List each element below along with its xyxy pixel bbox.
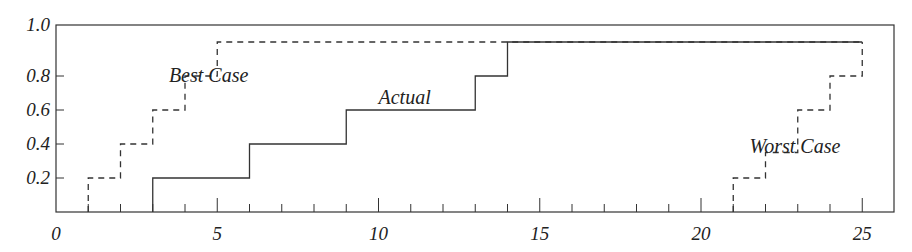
step-chart: 05101520250.20.40.60.81.0 Best CaseActua…	[0, 0, 912, 252]
x-tick-label: 20	[692, 223, 712, 244]
y-tick-label: 0.8	[26, 65, 50, 86]
x-tick-label: 0	[51, 223, 61, 244]
annotation-label: Best Case	[169, 64, 249, 86]
series-actual	[153, 42, 863, 212]
y-tick-label: 1.0	[26, 14, 50, 35]
y-tick-label: 0.6	[26, 99, 50, 120]
x-tick-label: 10	[369, 223, 389, 244]
annotation-label: Actual	[377, 86, 432, 108]
annotation-label: Worst Case	[749, 135, 840, 157]
x-tick-label: 25	[853, 223, 872, 244]
x-tick-label: 5	[213, 223, 223, 244]
series-worst-case	[733, 42, 862, 212]
plot-frame	[56, 25, 894, 212]
y-tick-label: 0.2	[26, 167, 50, 188]
y-tick-label: 0.4	[26, 133, 50, 154]
axis-ticks	[56, 76, 862, 212]
x-tick-label: 15	[530, 223, 549, 244]
